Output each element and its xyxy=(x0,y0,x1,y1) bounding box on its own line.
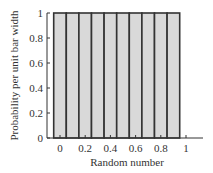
bar xyxy=(104,13,117,138)
bar xyxy=(167,13,180,138)
bar xyxy=(142,13,155,138)
x-tick-label: 0.4 xyxy=(104,142,118,154)
bar xyxy=(92,13,105,138)
x-tick-label: 1 xyxy=(183,142,189,154)
bar xyxy=(129,13,142,138)
y-tick-label: 0.8 xyxy=(29,32,43,44)
y-tick-label: 0.6 xyxy=(29,57,43,69)
bar xyxy=(79,13,92,138)
bar xyxy=(155,13,168,138)
bar xyxy=(54,13,67,138)
y-axis-title: Probability per unit bar width xyxy=(8,10,20,141)
bars xyxy=(54,13,180,138)
x-tick-label: 0 xyxy=(57,142,63,154)
y-tick-label: 0.2 xyxy=(29,107,43,119)
y-tick-label: 0.4 xyxy=(29,82,43,94)
x-tick-label: 0.2 xyxy=(78,142,92,154)
x-axis-title: Random number xyxy=(90,156,164,168)
histogram-chart: 00.20.40.60.8100.20.40.60.81Random numbe… xyxy=(0,0,213,173)
y-tick-label: 1 xyxy=(38,7,44,19)
bar xyxy=(66,13,79,138)
y-tick-label: 0 xyxy=(38,132,44,144)
x-tick-label: 0.8 xyxy=(154,142,168,154)
bar xyxy=(117,13,130,138)
x-tick-label: 0.6 xyxy=(129,142,143,154)
